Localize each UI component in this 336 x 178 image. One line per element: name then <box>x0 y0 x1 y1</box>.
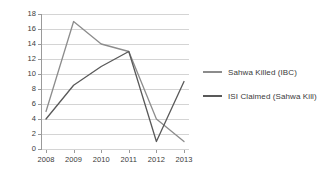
y-axis-tick-label: 0 <box>20 145 36 153</box>
y-axis-tick-mark <box>38 119 41 120</box>
series-line-sahwa-killed <box>46 22 184 142</box>
x-axis-tick-label: 2013 <box>167 155 201 164</box>
y-axis-tick-label: 14 <box>20 40 36 48</box>
y-axis-tick-mark <box>38 14 41 15</box>
y-axis-tick-mark <box>38 149 41 150</box>
y-axis-tick-mark <box>38 104 41 105</box>
legend-swatch-sahwa-killed <box>203 71 222 73</box>
x-axis-tick-mark <box>74 150 75 153</box>
y-axis-tick-mark <box>38 134 41 135</box>
chart-legend: Sahwa Killed (IBC) ISI Claimed (Sahwa Ki… <box>203 60 336 108</box>
y-axis-tick-label: 16 <box>20 25 36 33</box>
legend-item: ISI Claimed (Sahwa Kill) <box>203 84 336 108</box>
series-line-isi-claimed <box>46 52 184 142</box>
x-axis-tick-mark <box>184 150 185 153</box>
series-lines <box>41 14 189 150</box>
y-axis-tick-labels: 024681012141618 <box>14 0 36 178</box>
legend-label-sahwa-killed: Sahwa Killed (IBC) <box>228 68 297 77</box>
y-axis-tick-label: 2 <box>20 130 36 138</box>
x-axis-tick-mark <box>129 150 130 153</box>
legend-item: Sahwa Killed (IBC) <box>203 60 336 84</box>
y-axis-tick-label: 12 <box>20 55 36 63</box>
y-axis-tick-label: 18 <box>20 10 36 18</box>
y-axis-tick-label: 4 <box>20 115 36 123</box>
x-axis-tick-mark <box>101 150 102 153</box>
y-axis-tick-label: 8 <box>20 85 36 93</box>
y-axis-tick-mark <box>38 74 41 75</box>
y-axis-tick-label: 6 <box>20 100 36 108</box>
y-axis-tick-mark <box>38 29 41 30</box>
line-chart-figure: 024681012141618 Sahwa Killed (IBC) ISI C… <box>0 0 336 178</box>
y-axis-tick-mark <box>38 89 41 90</box>
y-axis-tick-mark <box>38 44 41 45</box>
x-axis-tick-mark <box>46 150 47 153</box>
y-axis-tick-label: 10 <box>20 70 36 78</box>
x-axis-tick-mark <box>156 150 157 153</box>
legend-label-isi-claimed: ISI Claimed (Sahwa Kill) <box>228 92 317 101</box>
y-axis-tick-mark <box>38 59 41 60</box>
legend-swatch-isi-claimed <box>203 95 222 97</box>
